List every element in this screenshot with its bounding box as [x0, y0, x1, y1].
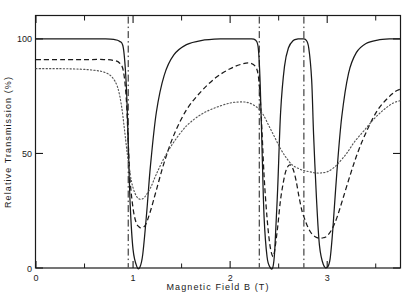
- series-solid: [36, 39, 400, 269]
- y-tick-label: 50: [22, 149, 32, 159]
- y-tick-label: 0: [27, 264, 32, 274]
- y-axis-title: Relative Transmission (%): [3, 76, 13, 208]
- transmission-vs-field-chart: 0123 050100 Magnetic Field B (T) Relativ…: [0, 0, 418, 298]
- data-series-group: [36, 39, 400, 269]
- plot-frame: [36, 16, 401, 269]
- y-tick-label: 100: [17, 34, 32, 44]
- figure-container: 0123 050100 Magnetic Field B (T) Relativ…: [0, 0, 418, 298]
- y-axis-major-ticks: [36, 39, 400, 268]
- x-tick-label: 0: [33, 273, 38, 283]
- x-axis-major-ticks: [36, 16, 327, 268]
- x-axis-title: Magnetic Field B (T): [166, 282, 269, 292]
- y-axis-tick-labels: 050100: [17, 34, 32, 273]
- x-tick-label: 3: [325, 273, 330, 283]
- x-tick-label: 1: [131, 273, 136, 283]
